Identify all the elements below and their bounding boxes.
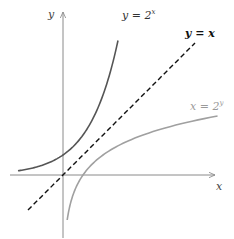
y-axis-label: y [47,8,55,21]
function-graph: y x y = 2x y = x x = 2y [0,0,234,239]
log-curve-label: x = 2y [190,99,224,113]
identity-line-label: y = x [184,27,215,40]
exp-curve-label: y = 2x [121,8,155,22]
exp-curve [18,40,118,170]
x-axis-label: x [216,180,223,193]
log-curve [67,116,217,220]
